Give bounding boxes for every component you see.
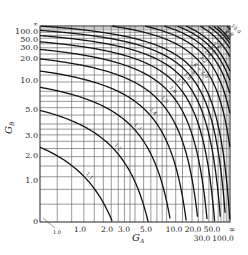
x-tick-label: 1.0	[74, 225, 86, 234]
x-tick-label: 3.0	[118, 225, 130, 234]
svg-text:GB: GB	[3, 121, 15, 134]
y-tick-label: 0	[33, 217, 38, 226]
x-tick-label: ∞	[229, 225, 235, 234]
y-axis-label: GB	[3, 121, 15, 134]
nomograph-svg: 1.11.21.31.41.51.61.71.81.9K = 2.02.22.4…	[0, 0, 248, 255]
x-tick-label: 5.0	[140, 225, 152, 234]
k-curve	[40, 87, 170, 218]
y-tick-label: 30.0	[20, 43, 38, 52]
x-tick-label: 50.0	[204, 225, 221, 234]
y-tick-label: 2.0	[25, 151, 38, 160]
x-tick-label: 100.0	[212, 234, 234, 243]
y-tick-label: 20.0	[20, 54, 38, 63]
x-tick-label: 30.0	[194, 234, 211, 243]
y-tick-label: 10.0	[20, 76, 38, 85]
k-curve	[40, 147, 112, 221]
y-tick-label: 5.0	[25, 105, 38, 114]
x-tick-label: 2.0	[101, 225, 113, 234]
x-tick-label: 10.0	[166, 225, 183, 234]
nomograph-chart: 1.11.21.31.41.51.61.71.81.9K = 2.02.22.4…	[0, 0, 248, 255]
y-tick-infinity: ∞	[33, 20, 38, 27]
x-tick-small-label: 1.0	[53, 229, 61, 235]
x-tick-label: 20.0	[185, 225, 202, 234]
y-tick-label: 1.0	[25, 176, 38, 185]
y-tick-label: 3.0	[25, 131, 38, 140]
